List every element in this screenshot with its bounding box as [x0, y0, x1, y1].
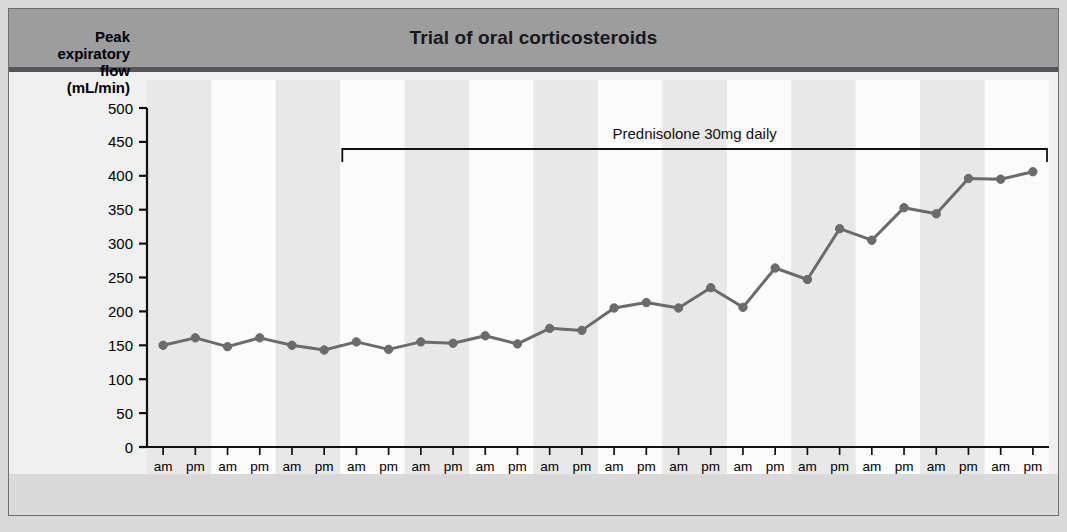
y-tick-label: 250 [108, 269, 133, 286]
data-point [739, 303, 747, 311]
x-tick-time: pm [444, 459, 463, 474]
data-point [578, 326, 586, 334]
x-tick-time: pm [379, 459, 398, 474]
x-tick-time: pm [186, 459, 205, 474]
figure-root: Trial of oral corticosteroids 0501001502… [0, 0, 1067, 532]
x-tick-time: pm [830, 459, 849, 474]
x-tick-time: am [798, 459, 817, 474]
data-point [803, 275, 811, 283]
data-point [868, 236, 876, 244]
title-banner: Trial of oral corticosteroids [9, 9, 1058, 67]
y-axis-title-line-2: flow [18, 62, 130, 79]
data-point [932, 210, 940, 218]
chart-canvas: 050100150200250300350400450500 ampmampma… [9, 72, 1058, 474]
x-tick-time: pm [701, 459, 720, 474]
x-tick-time: pm [1024, 459, 1043, 474]
x-tick-time: am [218, 459, 237, 474]
y-axis-title-line-0: Peak [18, 28, 130, 45]
y-tick-label: 450 [108, 133, 133, 150]
figure-base [9, 474, 1058, 515]
data-point [256, 334, 264, 342]
data-point [449, 339, 457, 347]
data-point [191, 334, 199, 342]
x-tick-time: pm [895, 459, 914, 474]
y-tick-label: 100 [108, 371, 133, 388]
data-point [642, 298, 650, 306]
x-tick-time: pm [766, 459, 785, 474]
x-tick-time: am [476, 459, 495, 474]
line-chart: 050100150200250300350400450500 ampmampma… [9, 72, 1058, 474]
y-tick-label: 150 [108, 337, 133, 354]
x-tick-time: am [669, 459, 688, 474]
x-tick-time: am [347, 459, 366, 474]
x-tick-time: pm [637, 459, 656, 474]
data-point [900, 203, 908, 211]
x-tick-time: am [540, 459, 559, 474]
data-point [159, 341, 167, 349]
data-point [352, 338, 360, 346]
x-tick-time: pm [508, 459, 527, 474]
annotation-label: Prednisolone 30mg daily [612, 125, 777, 142]
data-point [610, 304, 618, 312]
data-point [771, 264, 779, 272]
x-tick-time: am [991, 459, 1010, 474]
x-tick-time: am [734, 459, 753, 474]
y-tick-label: 300 [108, 235, 133, 252]
y-tick-label: 350 [108, 201, 133, 218]
data-point [707, 283, 715, 291]
y-tick-label: 500 [108, 100, 133, 117]
data-point [1029, 168, 1037, 176]
data-point [545, 324, 553, 332]
x-tick-time: am [411, 459, 430, 474]
y-axis-title-line-3: (mL/min) [18, 79, 130, 96]
data-point [674, 304, 682, 312]
data-point [835, 224, 843, 232]
x-tick-time: pm [315, 459, 334, 474]
day-bands [9, 72, 1058, 474]
x-tick-time: am [605, 459, 624, 474]
x-tick-time: am [283, 459, 302, 474]
data-point [964, 174, 972, 182]
data-point [288, 341, 296, 349]
x-tick-time: pm [250, 459, 269, 474]
y-axis-title: Peakexpiratoryflow(mL/min) [18, 28, 130, 96]
y-tick-label: 400 [108, 167, 133, 184]
y-tick-label: 50 [116, 405, 133, 422]
y-axis-title-line-1: expiratory [18, 45, 130, 62]
data-point [513, 340, 521, 348]
y-tick-label: 0 [125, 439, 133, 456]
data-point [481, 332, 489, 340]
y-tick-label: 200 [108, 303, 133, 320]
x-tick-time: am [154, 459, 173, 474]
x-tick-time: pm [959, 459, 978, 474]
data-point [996, 175, 1004, 183]
x-tick-time: am [927, 459, 946, 474]
data-point [417, 338, 425, 346]
data-point [384, 345, 392, 353]
x-tick-time: am [862, 459, 881, 474]
data-point [320, 346, 328, 354]
x-tick-time: pm [573, 459, 592, 474]
data-point [223, 342, 231, 350]
page-title: Trial of oral corticosteroids [410, 27, 658, 49]
